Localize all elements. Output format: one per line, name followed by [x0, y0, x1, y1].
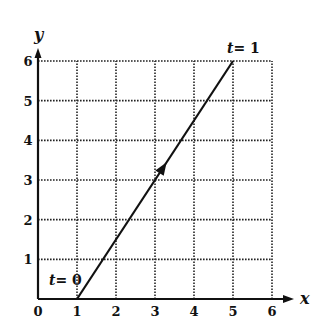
x-tick-label: 6 [267, 304, 276, 319]
y-tick-label: 2 [23, 213, 32, 228]
direction-arrow-icon [155, 160, 170, 176]
x-tick-label: 2 [111, 304, 120, 319]
x-axis-label: x [299, 289, 310, 308]
y-axis-arrow-icon [35, 48, 42, 58]
y-tick-label: 3 [23, 173, 32, 188]
x-tick-label: 5 [228, 304, 237, 319]
y-tick-labels: 123456 [23, 54, 32, 267]
y-tick-label: 6 [23, 54, 32, 69]
x-tick-labels: 0123456 [33, 304, 276, 319]
axes [35, 48, 295, 303]
x-tick-label: 3 [150, 304, 159, 319]
y-tick-label: 4 [23, 133, 32, 148]
y-axis-label: y [33, 25, 45, 44]
y-tick-label: 5 [23, 94, 32, 109]
annotation-t-1: t= 1 [227, 40, 260, 56]
annotation-t-0: t= 0 [49, 272, 82, 288]
x-tick-label: 0 [33, 304, 42, 319]
x-tick-label: 1 [72, 304, 81, 319]
x-axis-arrow-icon [283, 295, 294, 303]
y-tick-label: 1 [23, 252, 32, 267]
x-tick-label: 4 [189, 304, 198, 319]
chart-canvas: 0123456 123456 x y t= 0t= 1 [0, 0, 323, 328]
